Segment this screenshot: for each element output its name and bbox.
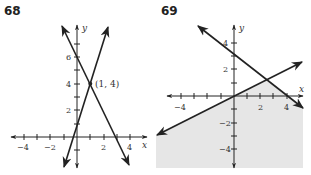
x-axis-label: x <box>299 84 304 94</box>
x-tick-label: 2 <box>101 143 106 152</box>
y-axis-label: y <box>238 23 245 33</box>
x-tick-label: −4 <box>174 103 186 112</box>
y-tick-label: 2 <box>66 106 71 115</box>
graphs-canvas: −4 −2 2 4 x 6 4 2 y (1, 4) <box>0 0 311 175</box>
x-tick-label: 2 <box>258 103 263 112</box>
graph-68: −4 −2 2 4 x 6 4 2 y (1, 4) <box>11 23 147 168</box>
graph-69: −4 2 4 x 4 2 −2 −4 y <box>156 23 304 168</box>
intersection-point <box>88 82 92 86</box>
y-tick-label: 4 <box>66 80 71 89</box>
x-axis-label: x <box>142 140 147 150</box>
y-tick-label: 2 <box>223 65 228 74</box>
x-tick-label: −4 <box>17 143 29 152</box>
x-tick-label: −2 <box>44 143 56 152</box>
x-tick-label: 4 <box>127 143 132 152</box>
line-y-equals-6-minus-2x <box>62 26 129 165</box>
y-tick-label: 6 <box>66 53 71 62</box>
x-tick-label: 4 <box>284 103 289 112</box>
y-axis-label: y <box>81 23 88 33</box>
y-tick-label: −4 <box>219 145 231 154</box>
y-tick-label: −2 <box>219 119 231 128</box>
point-label: (1, 4) <box>95 79 119 89</box>
